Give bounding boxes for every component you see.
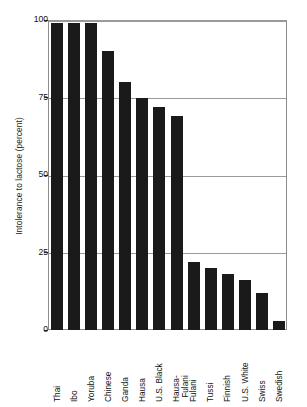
- y-axis-label-100: 100: [8, 15, 48, 24]
- x-axis-label-line: Yoruba: [87, 376, 96, 402]
- x-axis-label: Thai: [53, 386, 62, 402]
- x-axis-label-line: Fulani: [189, 379, 198, 402]
- x-axis-labels: ThaiIboYorubaChineseGandaHausaU.S. Black…: [48, 332, 287, 406]
- bar: [188, 262, 200, 330]
- bar: [205, 268, 217, 330]
- bar: [102, 51, 114, 330]
- x-axis-label: Finnish: [223, 375, 232, 402]
- x-axis-label: Ganda: [121, 377, 130, 402]
- bar: [171, 116, 183, 330]
- x-axis-label: Ibo: [70, 390, 79, 402]
- x-axis-label: Fulani: [189, 379, 198, 402]
- bar: [153, 107, 165, 330]
- x-axis-label-line: Swedish: [275, 371, 284, 402]
- x-axis-label-line: Chinese: [104, 372, 113, 402]
- lactose-intolerance-bar-chart: Intolerance to lactose (percent) 0255075…: [0, 0, 307, 407]
- x-axis-label: U.S. White: [241, 362, 250, 402]
- x-axis-label: U.S. Black: [155, 363, 164, 402]
- x-axis-label-line: Thai: [53, 386, 62, 402]
- x-axis-label: Hausa: [138, 378, 147, 402]
- x-axis-label-line: Finnish: [223, 375, 232, 402]
- x-axis-label: Swedish: [275, 371, 284, 402]
- x-axis-label-line: Hausa: [138, 378, 147, 402]
- bar: [68, 23, 80, 330]
- x-axis-label-line: Ganda: [121, 377, 130, 402]
- x-axis-label-line: Swiss: [258, 380, 267, 402]
- x-axis-label: Yoruba: [87, 376, 96, 402]
- x-axis-label: Swiss: [258, 380, 267, 402]
- y-axis-label-75: 75: [8, 93, 48, 102]
- bars-layer: [48, 20, 287, 330]
- x-axis-label-line: U.S. Black: [155, 363, 164, 402]
- y-axis-label-50: 50: [8, 170, 48, 179]
- bar: [136, 98, 148, 331]
- x-axis-label: Chinese: [104, 372, 113, 402]
- y-axis-label-0: 0: [8, 325, 48, 334]
- bar: [256, 293, 268, 330]
- bar: [119, 82, 131, 330]
- x-axis-label: Tussi: [206, 382, 215, 402]
- bar: [51, 23, 63, 330]
- bar: [273, 321, 285, 330]
- x-axis-label-line: Tussi: [206, 382, 215, 402]
- x-axis-label-line: Ibo: [70, 390, 79, 402]
- bar: [222, 274, 234, 330]
- x-axis-label-line: U.S. White: [241, 362, 250, 402]
- y-axis-label-25: 25: [8, 248, 48, 257]
- bar: [239, 280, 251, 330]
- bar: [85, 23, 97, 330]
